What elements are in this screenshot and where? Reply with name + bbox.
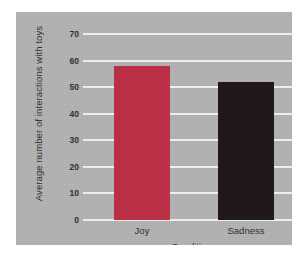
y-axis-title: Average number of interactions with toys	[33, 24, 44, 204]
x-axis-category-label: Joy	[94, 225, 190, 236]
gridline	[90, 33, 292, 35]
y-axis-tick	[83, 166, 90, 168]
y-axis-tick	[83, 219, 90, 221]
y-axis-tick	[83, 139, 90, 141]
y-axis-tick-label: 0	[74, 215, 79, 225]
y-axis-tick	[83, 86, 90, 88]
y-axis-tick	[83, 113, 90, 115]
y-axis-tick-label: 40	[70, 109, 79, 119]
x-axis-category-label: Sadness	[198, 225, 292, 236]
y-axis-tick-label: 20	[70, 162, 79, 172]
y-axis-tick	[83, 192, 90, 194]
y-axis-tick-label: 10	[70, 188, 79, 198]
y-axis-tick-label: 30	[70, 135, 79, 145]
chart-figure: Average number of interactions with toys…	[0, 0, 307, 258]
plot-area: 706050403020100	[90, 34, 292, 220]
gridline	[90, 60, 292, 62]
y-axis-tick-label: 60	[70, 56, 79, 66]
bar-sadness	[218, 82, 274, 220]
x-axis-title: Conditions	[90, 241, 292, 245]
chart-panel: Average number of interactions with toys…	[16, 12, 292, 245]
y-axis-tick	[83, 33, 90, 35]
bar-joy	[114, 66, 170, 220]
y-axis-tick-label: 50	[70, 82, 79, 92]
y-axis-tick	[83, 60, 90, 62]
y-axis-tick-label: 70	[70, 29, 79, 39]
